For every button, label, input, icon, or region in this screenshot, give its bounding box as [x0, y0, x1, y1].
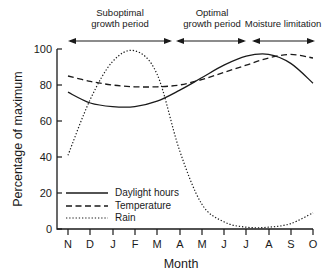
x-tick-label: O — [309, 238, 318, 250]
legend-label-temperature: Temperature — [115, 200, 172, 211]
x-tick-label: N — [64, 238, 72, 250]
legend-label-daylight: Daylight hours — [115, 187, 179, 198]
x-tick-label: M — [197, 238, 206, 250]
period-label-line1: Moisture limitation — [245, 18, 322, 29]
x-tick-label: J — [110, 238, 116, 250]
period-label-line1: Suboptimal — [96, 7, 144, 18]
period-annotation-moisture: Moisture limitation — [245, 18, 322, 44]
y-tick-label: 20 — [40, 187, 52, 199]
y-tick-labels: 100 80 60 40 20 0 — [34, 43, 52, 235]
y-tick-label: 0 — [46, 223, 52, 235]
chart-axes — [57, 49, 313, 235]
line-chart: Suboptimal growth period Optimal growth … — [0, 0, 324, 275]
series-line-daylight — [68, 54, 313, 107]
x-tick-label: A — [176, 238, 184, 250]
chart-legend: Daylight hours Temperature Rain — [66, 187, 179, 223]
double-arrow-icon — [252, 38, 315, 44]
series-line-rain — [68, 50, 313, 227]
x-tick-label: J — [221, 238, 227, 250]
x-tick-label: D — [86, 238, 94, 250]
chart-figure: Suboptimal growth period Optimal growth … — [0, 0, 324, 275]
y-tick-label: 60 — [40, 115, 52, 127]
y-tick-label: 40 — [40, 151, 52, 163]
period-annotation-optimal: Optimal growth period — [176, 7, 246, 44]
x-tick-label: S — [287, 238, 294, 250]
series-line-temperature — [68, 54, 313, 87]
legend-label-rain: Rain — [115, 212, 136, 223]
period-annotations: Suboptimal growth period Optimal growth … — [68, 7, 321, 44]
y-axis-title: Percentage of maximum — [11, 71, 25, 206]
y-tick-label: 100 — [34, 43, 52, 55]
data-series — [68, 50, 313, 227]
x-tick-marks — [68, 229, 313, 235]
x-tick-label: F — [132, 238, 139, 250]
x-tick-label: M — [152, 238, 161, 250]
period-label-line2: growth period — [91, 18, 149, 29]
period-label-line2: growth period — [183, 18, 241, 29]
y-tick-marks — [57, 49, 62, 229]
double-arrow-icon — [68, 38, 172, 44]
x-axis-title: Month — [164, 257, 199, 271]
axis-frame — [57, 49, 313, 229]
x-tick-label: J — [243, 238, 249, 250]
period-annotation-suboptimal: Suboptimal growth period — [68, 7, 172, 44]
y-tick-label: 80 — [40, 79, 52, 91]
double-arrow-icon — [176, 38, 246, 44]
period-label-line1: Optimal — [196, 7, 229, 18]
x-tick-labels: N D J F M A M J J A S O — [64, 238, 318, 250]
x-tick-label: A — [265, 238, 273, 250]
